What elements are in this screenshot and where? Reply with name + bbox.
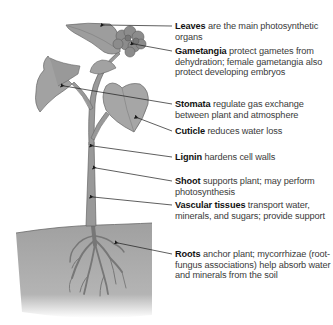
term: Stomata — [175, 99, 211, 109]
leaf-small — [90, 60, 116, 74]
leader-lignin — [93, 146, 172, 157]
term: Vascular tissues — [175, 200, 245, 210]
term: Cuticle — [175, 126, 205, 136]
leader-cuticle — [138, 118, 172, 131]
description: reduces water loss — [205, 126, 282, 136]
label-roots: Roots anchor plant; mycorrhizae (root-fu… — [175, 249, 333, 281]
label-leaves: Leaves are the main photosynthetic organ… — [175, 21, 333, 42]
leader-shoot — [96, 168, 172, 181]
label-vascular-tissues: Vascular tissues transport water, minera… — [175, 200, 333, 221]
term: Shoot — [175, 176, 201, 186]
stem — [72, 52, 120, 226]
label-lignin: Lignin hardens cell walls — [175, 152, 333, 163]
label-shoot: Shoot supports plant; may perform photos… — [175, 176, 333, 197]
term: Roots — [175, 249, 201, 259]
description: hardens cell walls — [202, 152, 275, 162]
term: Leaves — [175, 21, 206, 31]
label-cuticle: Cuticle reduces water loss — [175, 126, 333, 137]
leaf-heart — [103, 83, 148, 132]
label-stomata: Stomata regulate gas exchange between pl… — [175, 99, 333, 120]
leader-lines — [64, 25, 172, 254]
soil — [16, 223, 152, 318]
label-gametangia: Gametangia protect gametes from dehydrat… — [175, 46, 333, 78]
term: Lignin — [175, 152, 202, 162]
term: Gametangia — [175, 46, 227, 56]
leader-leaves — [104, 25, 172, 26]
leader-vascular — [93, 197, 172, 205]
plant-structure-diagram: Leaves are the main photosynthetic organ… — [0, 0, 333, 325]
